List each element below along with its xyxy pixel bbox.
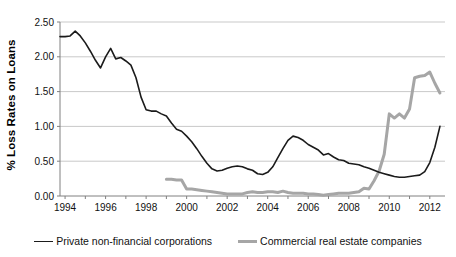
x-tick-label: 2010 xyxy=(378,202,401,213)
chart-legend: Private non-financial corporations Comme… xyxy=(0,228,456,254)
x-tick-label: 2004 xyxy=(257,202,280,213)
legend-label-series-1: Commercial real estate companies xyxy=(260,235,422,247)
y-tick-label: 2.50 xyxy=(35,17,55,28)
x-tick-label: 1998 xyxy=(135,202,158,213)
legend-entry-private-non-financial-corporations: Private non-financial corporations xyxy=(34,235,212,247)
y-tick-label: 0.50 xyxy=(35,156,55,167)
plot-area: 0.000.501.001.502.002.501994199619982000… xyxy=(0,0,456,228)
x-tick-label: 2006 xyxy=(297,202,320,213)
x-tick-label: 2000 xyxy=(176,202,199,213)
y-tick-label: 2.00 xyxy=(35,51,55,62)
legend-label-series-0: Private non-financial corporations xyxy=(56,235,212,247)
chart-figure: % Loss Rates on Loans 0.000.501.001.502.… xyxy=(0,0,456,257)
legend-entry-commercial-real-estate-companies: Commercial real estate companies xyxy=(238,235,422,247)
y-tick-label: 1.00 xyxy=(35,121,55,132)
x-tick-label: 2012 xyxy=(419,202,442,213)
x-tick-label: 2002 xyxy=(216,202,239,213)
legend-line-icon-series-0 xyxy=(34,241,53,242)
x-tick-label: 1994 xyxy=(54,202,77,213)
y-tick-label: 0.00 xyxy=(35,191,55,202)
x-tick-label: 2008 xyxy=(338,202,361,213)
y-tick-label: 1.50 xyxy=(35,86,55,97)
legend-line-icon-series-1 xyxy=(238,240,257,243)
x-tick-label: 1996 xyxy=(94,202,117,213)
